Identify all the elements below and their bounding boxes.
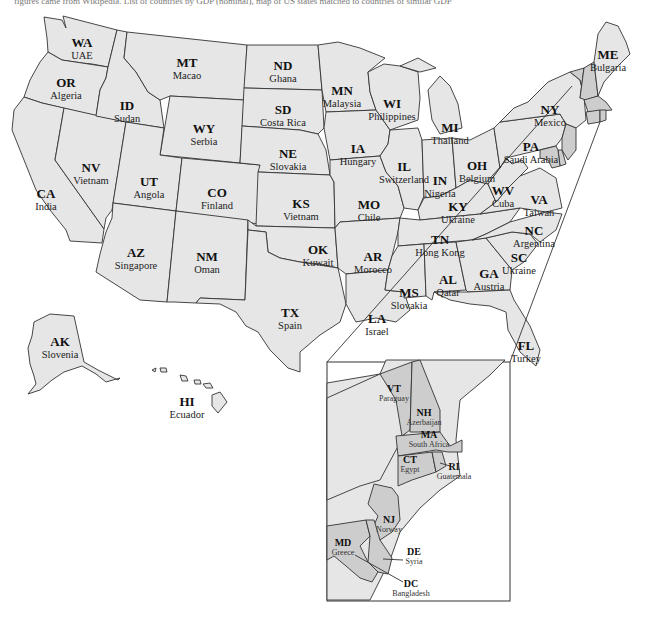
state-nm[interactable]: [167, 211, 248, 303]
state-fl[interactable]: [434, 290, 540, 366]
state-ks[interactable]: [256, 172, 335, 228]
state-ma[interactable]: [584, 96, 612, 112]
state-ia[interactable]: [324, 110, 390, 160]
state-in[interactable]: [422, 138, 456, 198]
state-ri[interactable]: [600, 110, 606, 122]
state-nj[interactable]: [562, 124, 576, 160]
state-nd[interactable]: [244, 45, 322, 90]
state-az[interactable]: [96, 203, 176, 302]
us-map: [0, 0, 647, 617]
state-ak[interactable]: [28, 314, 120, 394]
state-md[interactable]: [540, 146, 560, 168]
state-me[interactable]: [594, 22, 630, 96]
state-wy[interactable]: [160, 96, 244, 163]
state-ct[interactable]: [586, 110, 600, 124]
state-hi[interactable]: [152, 368, 227, 413]
